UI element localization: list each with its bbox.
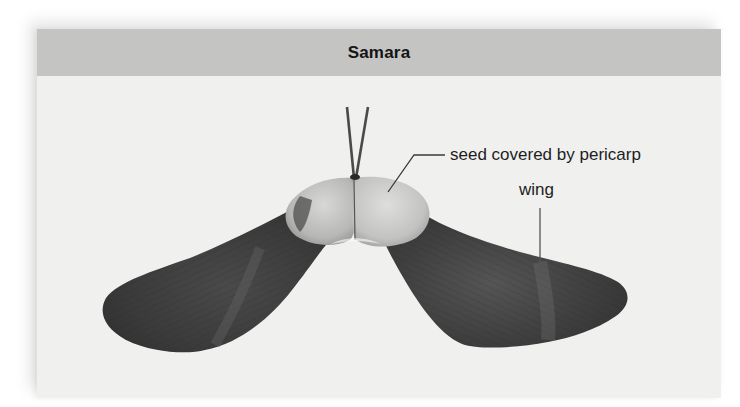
panel-header: Samara: [37, 29, 721, 76]
figure-stage: Samara: [0, 0, 740, 407]
figure-panel: Samara: [37, 29, 721, 398]
label-seed-covered-by-pericarp: seed covered by pericarp: [450, 145, 641, 165]
label-wing: wing: [519, 180, 554, 200]
panel-title: Samara: [348, 43, 411, 63]
